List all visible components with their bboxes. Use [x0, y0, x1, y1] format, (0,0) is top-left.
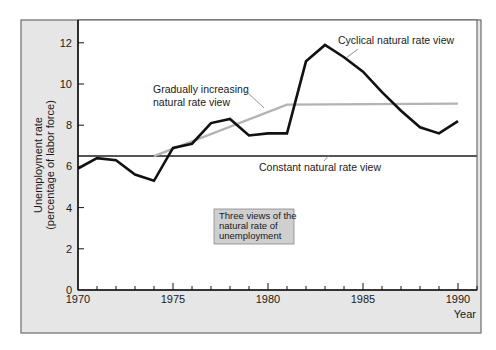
- svg-text:Constant natural rate view: Constant natural rate view: [259, 161, 381, 173]
- svg-text:unemployment: unemployment: [219, 230, 282, 241]
- note-box: Three views of the natural rate of unemp…: [214, 209, 297, 244]
- y-axis-title: Unemployment rate (percentage of labor f…: [32, 100, 56, 230]
- x-axis-title: Year: [454, 308, 477, 320]
- y-tick-label: 8: [66, 119, 72, 131]
- x-tick-label: 1970: [66, 293, 90, 305]
- x-tick-label: 1985: [351, 293, 375, 305]
- svg-text:natural rate view: natural rate view: [153, 96, 230, 108]
- y-tick-label: 2: [66, 243, 72, 255]
- svg-text:Cyclical natural rate view: Cyclical natural rate view: [338, 34, 455, 46]
- y-tick-label: 12: [60, 37, 72, 49]
- x-tick-label: 1980: [256, 293, 280, 305]
- y-tick-label: 6: [66, 160, 72, 172]
- y-tick-label: 4: [66, 202, 72, 214]
- y-tick-label: 10: [60, 78, 72, 90]
- svg-text:Unemployment rate: Unemployment rate: [32, 117, 44, 213]
- x-tick-label: 1975: [161, 293, 185, 305]
- x-tick-label: 1990: [446, 293, 470, 305]
- plot-area: [78, 20, 477, 290]
- chart: Unemployment rate (percentage of labor f…: [0, 0, 496, 350]
- svg-text:(percentage of labor force): (percentage of labor force): [44, 100, 56, 230]
- svg-text:Gradually increasing: Gradually increasing: [153, 83, 249, 95]
